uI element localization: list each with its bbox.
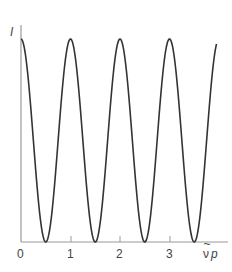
x-ticks: [71, 236, 170, 242]
x-axis-label-p: p: [210, 247, 218, 261]
x-tick-label-1: 1: [67, 247, 74, 261]
y-axis-label: I: [10, 25, 14, 39]
intensity-curve: [21, 39, 217, 242]
x-axis-label-tilde: ~: [204, 237, 211, 251]
x-tick-label-0: 0: [17, 247, 24, 261]
x-tick-label-2: 2: [116, 247, 123, 261]
interference-chart: 0 1 2 3 ν ~ p I: [0, 0, 232, 272]
x-tick-label-3: 3: [166, 247, 173, 261]
